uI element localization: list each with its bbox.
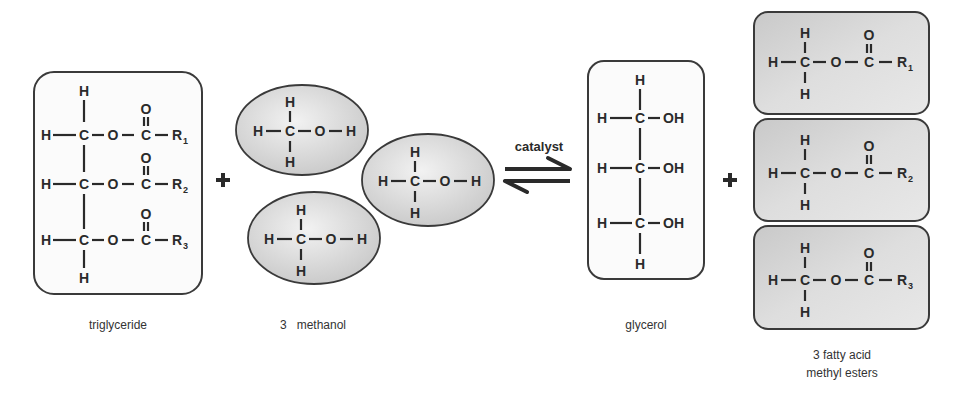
- plus-icon: [216, 173, 230, 187]
- svg-text:C: C: [79, 176, 89, 192]
- svg-text:C: C: [285, 123, 295, 139]
- svg-text:H: H: [635, 72, 645, 88]
- svg-text:H: H: [41, 176, 51, 192]
- svg-text:C: C: [410, 173, 420, 189]
- svg-text:O: O: [864, 245, 875, 261]
- methyl-ester-3: H H C O C O R 3 H: [754, 226, 929, 329]
- svg-text:O: O: [831, 272, 842, 288]
- methanol-molecule-3: H H C O H H: [362, 134, 494, 226]
- svg-text:O: O: [108, 176, 119, 192]
- svg-text:H: H: [635, 256, 645, 272]
- esters-label-line2: methyl esters: [806, 366, 877, 380]
- svg-text:1: 1: [183, 136, 188, 146]
- svg-text:R: R: [897, 165, 907, 181]
- triglyceride-molecule: H H C O C O R 1 H C O C O: [34, 72, 202, 294]
- methanol-label: 3 methanol: [280, 318, 346, 332]
- svg-text:R: R: [897, 54, 907, 70]
- svg-text:H: H: [800, 86, 810, 102]
- svg-text:H: H: [800, 197, 810, 213]
- triglyceride-label: triglyceride: [89, 318, 147, 332]
- svg-text:R: R: [172, 232, 182, 248]
- methyl-ester-2: H H C O C O R 2 H: [754, 119, 929, 221]
- svg-text:H: H: [800, 240, 810, 256]
- svg-text:R: R: [172, 127, 182, 143]
- svg-text:C: C: [800, 165, 810, 181]
- glycerol-label: glycerol: [625, 318, 666, 332]
- svg-text:O: O: [141, 101, 152, 117]
- atom-h: H: [79, 83, 89, 99]
- svg-text:O: O: [141, 206, 152, 222]
- svg-text:2: 2: [908, 174, 913, 184]
- svg-text:H: H: [471, 173, 481, 189]
- svg-text:H: H: [378, 173, 388, 189]
- svg-text:R: R: [897, 272, 907, 288]
- glycerol-molecule: H H C OH H C OH H C OH H: [588, 61, 704, 279]
- svg-text:O: O: [315, 123, 326, 139]
- svg-text:C: C: [141, 232, 151, 248]
- svg-text:H: H: [41, 232, 51, 248]
- svg-text:H: H: [800, 132, 810, 148]
- svg-text:C: C: [864, 272, 874, 288]
- svg-text:H: H: [41, 127, 51, 143]
- svg-text:H: H: [597, 215, 607, 231]
- svg-text:C: C: [864, 165, 874, 181]
- svg-text:O: O: [141, 150, 152, 166]
- svg-text:C: C: [800, 54, 810, 70]
- svg-text:H: H: [253, 123, 263, 139]
- svg-text:R: R: [172, 176, 182, 192]
- methanol-molecule-2: H H C O H H: [248, 192, 380, 284]
- svg-text:H: H: [800, 304, 810, 320]
- svg-text:H: H: [264, 231, 274, 247]
- svg-text:OH: OH: [663, 160, 684, 176]
- svg-text:O: O: [831, 165, 842, 181]
- svg-text:C: C: [79, 127, 89, 143]
- svg-text:H: H: [800, 25, 810, 41]
- equilibrium-arrow-icon: catalyst: [505, 139, 570, 192]
- svg-text:O: O: [108, 232, 119, 248]
- svg-text:H: H: [597, 160, 607, 176]
- svg-text:H: H: [768, 54, 778, 70]
- svg-text:C: C: [635, 160, 645, 176]
- svg-text:H: H: [296, 263, 306, 279]
- svg-text:H: H: [357, 231, 367, 247]
- svg-text:H: H: [346, 123, 356, 139]
- svg-text:C: C: [141, 127, 151, 143]
- svg-text:OH: OH: [663, 215, 684, 231]
- svg-text:C: C: [864, 54, 874, 70]
- svg-text:H: H: [410, 144, 420, 160]
- svg-text:H: H: [410, 205, 420, 221]
- svg-text:C: C: [296, 231, 306, 247]
- svg-text:O: O: [864, 138, 875, 154]
- svg-text:O: O: [326, 231, 337, 247]
- svg-text:H: H: [296, 202, 306, 218]
- svg-text:3: 3: [183, 241, 188, 251]
- reaction-diagram: H H C O C O R 1 H C O C O: [0, 0, 961, 403]
- svg-text:H: H: [768, 272, 778, 288]
- svg-text:H: H: [285, 154, 295, 170]
- methanol-molecule-1: H H C O H H: [236, 85, 368, 175]
- svg-text:C: C: [635, 110, 645, 126]
- svg-text:C: C: [800, 272, 810, 288]
- svg-text:O: O: [831, 54, 842, 70]
- svg-text:1: 1: [908, 63, 913, 73]
- methyl-ester-1: H H C O C O R 1 H: [754, 12, 929, 114]
- catalyst-label: catalyst: [515, 139, 564, 154]
- svg-text:H: H: [597, 110, 607, 126]
- svg-text:O: O: [864, 27, 875, 43]
- svg-text:H: H: [768, 165, 778, 181]
- svg-text:OH: OH: [663, 110, 684, 126]
- svg-text:H: H: [285, 94, 295, 110]
- svg-text:O: O: [440, 173, 451, 189]
- svg-text:O: O: [108, 127, 119, 143]
- plus-icon: [723, 173, 737, 187]
- esters-label-line1: 3 fatty acid: [813, 348, 871, 362]
- svg-text:H: H: [79, 270, 89, 286]
- svg-text:C: C: [79, 232, 89, 248]
- svg-text:2: 2: [183, 185, 188, 195]
- svg-text:3: 3: [908, 281, 913, 291]
- svg-text:C: C: [141, 176, 151, 192]
- svg-text:C: C: [635, 215, 645, 231]
